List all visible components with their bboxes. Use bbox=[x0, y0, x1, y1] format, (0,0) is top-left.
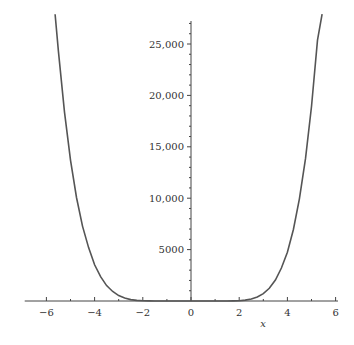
y-tick-label: 5000 bbox=[159, 244, 184, 255]
x-tick-label: −6 bbox=[39, 307, 54, 318]
y-tick-label: 10,000 bbox=[149, 193, 184, 204]
y-tick-label: 20,000 bbox=[149, 90, 184, 101]
y-tick-label: 15,000 bbox=[149, 141, 184, 152]
x-tick-label: −2 bbox=[135, 307, 150, 318]
y-axis: 500010,00015,00020,00025,000 bbox=[149, 21, 191, 301]
x-tick-label: 0 bbox=[188, 307, 194, 318]
x-axis: −6−4−20246 bbox=[25, 297, 339, 318]
x-tick-label: 2 bbox=[236, 307, 242, 318]
chart-plot-area: −6−4−20246 500010,00015,00020,00025,000 … bbox=[0, 0, 354, 345]
x-axis-label: x bbox=[260, 318, 266, 329]
x-tick-label: 6 bbox=[332, 307, 338, 318]
y-tick-label: 25,000 bbox=[149, 39, 184, 50]
x-tick-label: 4 bbox=[284, 307, 290, 318]
function-curve bbox=[55, 14, 322, 301]
x-tick-label: −4 bbox=[87, 307, 102, 318]
